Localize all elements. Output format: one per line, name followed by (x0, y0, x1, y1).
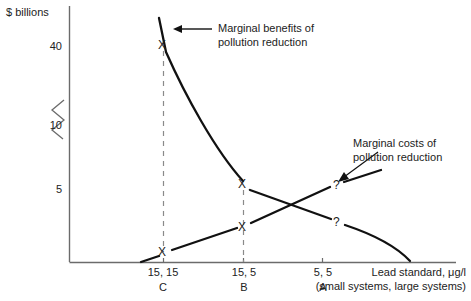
y-tick-label-10: 10 (28, 119, 62, 132)
x-axis-subtitle: (small systems, large systems) (293, 280, 466, 293)
marginal-benefits-annotation-line2: pollution reduction (218, 36, 307, 49)
y-tick-label-40: 40 (28, 40, 62, 53)
data-marker-costs-b: X (238, 221, 246, 234)
marginal-costs-curve-upper (251, 187, 330, 223)
data-marker-benefits-b: X (238, 178, 246, 191)
marginal-benefits-annotation-line1: Marginal benefits of (218, 22, 314, 35)
marginal-costs-annotation-line2: pollution reduction (353, 151, 442, 164)
x-tick-label-b-value: 15, 5 (209, 266, 279, 279)
y-tick-label-5: 5 (28, 183, 62, 196)
x-tick-label-c-value: 15, 15 (128, 266, 198, 279)
marginal-costs-curve-mid (172, 228, 237, 250)
marginal-costs-curve (141, 256, 159, 262)
marginal-benefits-curve-tail (345, 225, 410, 261)
y-axis-label: $ billions (6, 6, 49, 19)
data-marker-costs-c: X (158, 246, 166, 259)
question-mark-benefits: ? (333, 216, 340, 229)
benefits-annotation-arrowhead (173, 25, 182, 33)
marginal-costs-annotation-line1: Marginal costs of (353, 137, 436, 150)
chart-figure: $ billions 40 10 5 15, 15 C 15, 5 B 5, 5… (0, 0, 471, 301)
x-axis-title: Lead standard, μg/l (293, 266, 466, 279)
data-marker-benefits-c: X (158, 39, 166, 52)
question-mark-costs: ? (333, 179, 340, 192)
x-tick-label-b-letter: B (209, 281, 279, 294)
marginal-costs-curve-tail (344, 170, 381, 182)
x-tick-label-c-letter: C (128, 281, 198, 294)
